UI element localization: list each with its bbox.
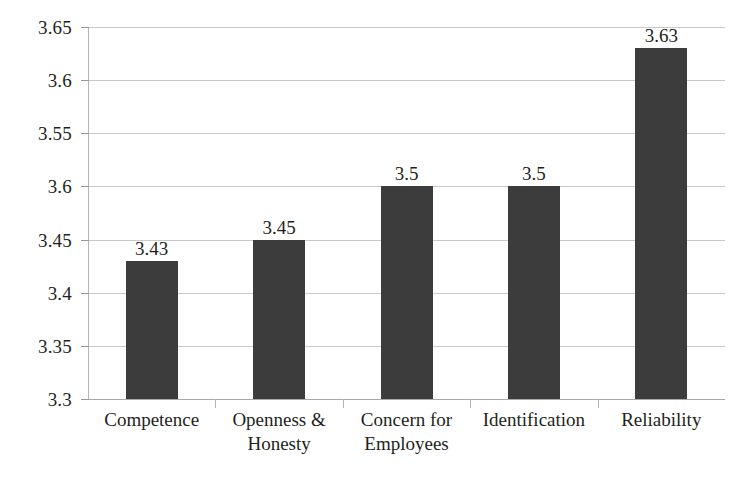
x-axis-tick-mark [470, 399, 471, 408]
y-axis-tick-mark [81, 186, 89, 187]
bar-value-label: 3.45 [219, 218, 339, 237]
y-axis-tick-label: 3.55 [0, 124, 72, 143]
x-axis-tick-mark [215, 399, 216, 408]
y-axis-tick-mark [81, 293, 89, 294]
y-axis-line [88, 27, 89, 400]
bar-value-label: 3.43 [92, 239, 212, 258]
x-axis-tick-mark [343, 399, 344, 408]
bar-value-label: 3.63 [601, 26, 721, 45]
bar [253, 240, 305, 399]
bar-value-label: 3.5 [347, 164, 467, 183]
bar-chart: 3.653.63.553.63.453.43.353.33.43Competen… [0, 0, 755, 482]
y-axis-tick-mark [81, 399, 89, 400]
bar [635, 48, 687, 399]
y-axis-tick-label: 3.6 [0, 71, 72, 90]
x-axis-category-label-line: Employees [327, 432, 487, 456]
gridline [88, 399, 725, 400]
x-axis-category-label-line: Reliability [581, 408, 741, 432]
bar [381, 186, 433, 399]
x-axis-tick-mark [598, 399, 599, 408]
y-axis-tick-label: 3.35 [0, 337, 72, 356]
y-axis-tick-label: 3.65 [0, 18, 72, 37]
x-axis-category-label: Reliability [581, 408, 741, 432]
bar [126, 261, 178, 399]
y-axis-tick-mark [81, 346, 89, 347]
y-axis-tick-mark [81, 80, 89, 81]
bar [508, 186, 560, 399]
y-axis-tick-mark [81, 133, 89, 134]
y-axis-tick-label: 3.6 [0, 177, 72, 196]
y-axis-tick-label: 3.4 [0, 284, 72, 303]
y-axis-tick-mark [81, 240, 89, 241]
gridline [88, 80, 725, 81]
bar-value-label: 3.5 [474, 164, 594, 183]
y-axis-tick-mark [81, 27, 89, 28]
gridline [88, 133, 725, 134]
y-axis-tick-label: 3.3 [0, 390, 72, 409]
y-axis-tick-label: 3.45 [0, 231, 72, 250]
